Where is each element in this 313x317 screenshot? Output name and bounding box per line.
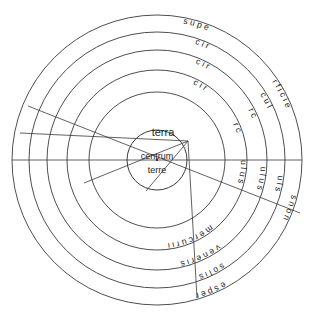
convergent-ray-1 [84, 141, 188, 183]
ring-0-textpath-bottom: e s p e r [195, 280, 228, 301]
ring-2-text-top: r c [246, 106, 260, 120]
ring-2-textpath-right: u l u s [255, 166, 269, 191]
ring-1-text-left: c i r [194, 36, 211, 50]
ring-2-text-left: c i r [195, 56, 212, 71]
ring-1-text-right: u l s [273, 175, 286, 193]
ring-2-text-right: u l u s [255, 166, 269, 191]
cosmological-diagram: r f i c i e s n o n e s p e r s u p e c … [0, 0, 313, 317]
ring-1-text-top: c u l [258, 90, 275, 109]
diagram-canvas: r f i c i e s n o n e s p e r s u p e c … [0, 0, 313, 317]
centrum-label: centrum [141, 151, 174, 161]
ring-1-textpath-left: c i r [194, 36, 211, 50]
ring-2-textpath-left: c i r [195, 56, 212, 71]
ring-1-textpath-bottom: s o l i s [198, 261, 227, 282]
terra-label: terra [152, 126, 176, 138]
ring-3-textpath-bottom: m e r c u r i i [167, 223, 215, 251]
ring-0-textpath-right: s n o n [281, 194, 299, 222]
ring-1-text-bottom: s o l i s [198, 261, 227, 282]
ring-3-text-right: u l u s [236, 160, 249, 185]
ring-0-text-bottom: e s p e r [195, 280, 228, 301]
ring-1-textpath-right: u l s [273, 175, 286, 193]
ring-2-textpath-top: r c [246, 106, 260, 120]
terre-label: terre [148, 165, 167, 175]
ring-3-textpath-left: c i r [192, 77, 210, 93]
ring-3-text-left: c i r [192, 77, 210, 93]
ring-3-textpath-right: u l u s [236, 160, 249, 185]
ring-0-text-left: s u p e [183, 16, 211, 33]
ring-0-text-right: s n o n [281, 194, 299, 222]
ring-0-textpath-left: s u p e [183, 16, 211, 33]
ring-1-textpath-top: c u l [258, 90, 275, 109]
ring-3-text-bottom: m e r c u r i i [167, 223, 215, 251]
